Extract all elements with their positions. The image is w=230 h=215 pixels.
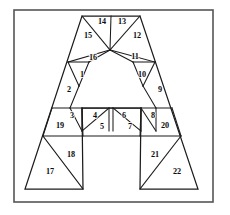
region-label-18: 18 xyxy=(67,150,75,159)
region-label-17: 17 xyxy=(46,167,54,176)
region-label-5: 5 xyxy=(100,122,104,131)
region-label-22: 22 xyxy=(173,167,181,176)
region-label-15: 15 xyxy=(84,31,92,40)
region-label-9: 9 xyxy=(158,85,162,94)
region-label-12: 12 xyxy=(133,31,141,40)
region-label-14: 14 xyxy=(98,17,106,26)
region-label-13: 13 xyxy=(118,17,126,26)
region-label-4: 4 xyxy=(93,111,97,120)
region-label-10: 10 xyxy=(138,70,146,79)
region-label-21: 21 xyxy=(151,150,159,159)
region-label-1: 1 xyxy=(80,70,84,79)
region-label-8: 8 xyxy=(151,111,155,120)
region-label-20: 20 xyxy=(161,121,169,130)
region-label-16: 16 xyxy=(89,53,97,62)
letter-a-triangulation-figure: 12345678910111213141516171819202122 xyxy=(0,0,230,215)
region-label-11: 11 xyxy=(131,52,139,61)
diagram-canvas: 12345678910111213141516171819202122 xyxy=(0,0,230,215)
region-label-7: 7 xyxy=(128,122,132,131)
region-label-2: 2 xyxy=(67,85,71,94)
region-label-3: 3 xyxy=(70,111,74,120)
region-label-6: 6 xyxy=(122,111,126,120)
region-label-19: 19 xyxy=(56,121,64,130)
